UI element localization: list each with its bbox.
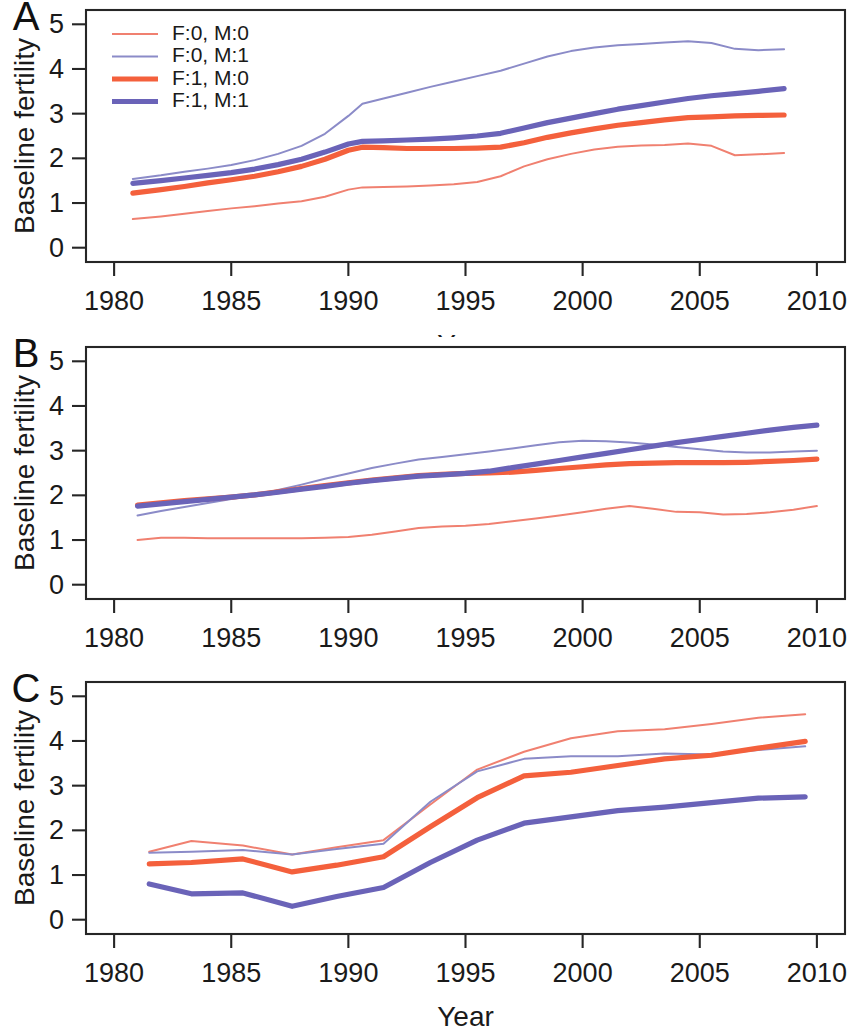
y-axis-title: Baseline fertility (9, 375, 40, 571)
y-tick-label-4: 4 (49, 54, 64, 84)
y-tick-label-2: 2 (49, 143, 64, 173)
y-tick-label-2: 2 (49, 480, 64, 510)
series-line-f-0-m-0 (149, 714, 805, 854)
x-tick-label-1995: 1995 (435, 958, 495, 988)
x-tick-label-1980: 1980 (84, 286, 144, 316)
y-axis-title: Baseline fertility (9, 38, 40, 234)
x-tick-label-2010: 2010 (787, 958, 847, 988)
panel-a-chart: 0123451980198519901995200020052010YearBa… (0, 0, 861, 337)
x-tick-label-2005: 2005 (670, 958, 730, 988)
y-tick-label-1: 1 (49, 860, 64, 890)
panel-c-chart: 0123451980198519901995200020052010YearBa… (0, 672, 861, 1035)
y-tick-label-3: 3 (49, 436, 64, 466)
legend-label-0: F:0, M:0 (172, 21, 249, 44)
x-tick-label-1985: 1985 (201, 623, 261, 653)
y-tick-label-4: 4 (49, 726, 64, 756)
panel-letter-c: C (12, 672, 41, 710)
x-axis-title: Year (437, 329, 494, 337)
panel-c: 0123451980198519901995200020052010YearBa… (0, 672, 861, 1035)
legend-label-3: F:1, M:1 (172, 88, 249, 111)
y-tick-label-3: 3 (49, 99, 64, 129)
series-line-f-0-m-1 (138, 441, 817, 516)
y-axis-title: Baseline fertility (9, 710, 40, 906)
y-tick-label-5: 5 (49, 346, 64, 376)
x-tick-label-1990: 1990 (318, 286, 378, 316)
series-line-f-0-m-0 (138, 506, 817, 540)
y-tick-label-0: 0 (49, 233, 64, 263)
x-tick-label-1980: 1980 (84, 958, 144, 988)
y-tick-label-1: 1 (49, 525, 64, 555)
panel-b: 0123451980198519901995200020052010YearBa… (0, 337, 861, 672)
series-line-f-1-m-0 (133, 115, 784, 193)
x-tick-label-1985: 1985 (201, 286, 261, 316)
y-tick-label-3: 3 (49, 771, 64, 801)
y-tick-label-4: 4 (49, 391, 64, 421)
x-tick-label-1995: 1995 (435, 286, 495, 316)
series-line-f-1-m-0 (149, 741, 805, 871)
x-tick-label-2010: 2010 (787, 286, 847, 316)
panel-letter-a: A (13, 0, 40, 38)
legend-label-1: F:0, M:1 (172, 43, 249, 66)
x-tick-label-1985: 1985 (201, 958, 261, 988)
x-tick-label-1995: 1995 (435, 623, 495, 653)
y-tick-label-1: 1 (49, 188, 64, 218)
panel-a: 0123451980198519901995200020052010YearBa… (0, 0, 861, 337)
x-tick-label-2010: 2010 (787, 623, 847, 653)
x-tick-label-2005: 2005 (670, 623, 730, 653)
y-tick-label-0: 0 (49, 570, 64, 600)
figure-container: 0123451980198519901995200020052010YearBa… (0, 0, 861, 1035)
x-tick-label-2000: 2000 (553, 958, 613, 988)
y-tick-label-2: 2 (49, 815, 64, 845)
series-line-f-1-m-1 (138, 425, 817, 506)
x-axis-title: Year (437, 1001, 494, 1032)
x-tick-label-1980: 1980 (84, 623, 144, 653)
x-tick-label-1990: 1990 (318, 958, 378, 988)
series-line-f-1-m-1 (149, 797, 805, 906)
x-tick-label-2000: 2000 (553, 286, 613, 316)
x-tick-label-1990: 1990 (318, 623, 378, 653)
y-tick-label-5: 5 (49, 681, 64, 711)
y-tick-label-5: 5 (49, 9, 64, 39)
x-tick-label-2005: 2005 (670, 286, 730, 316)
panel-b-chart: 0123451980198519901995200020052010YearBa… (0, 337, 861, 672)
y-tick-label-0: 0 (49, 905, 64, 935)
legend-label-2: F:1, M:0 (172, 66, 249, 89)
panel-letter-b: B (13, 337, 40, 375)
x-tick-label-2000: 2000 (553, 623, 613, 653)
